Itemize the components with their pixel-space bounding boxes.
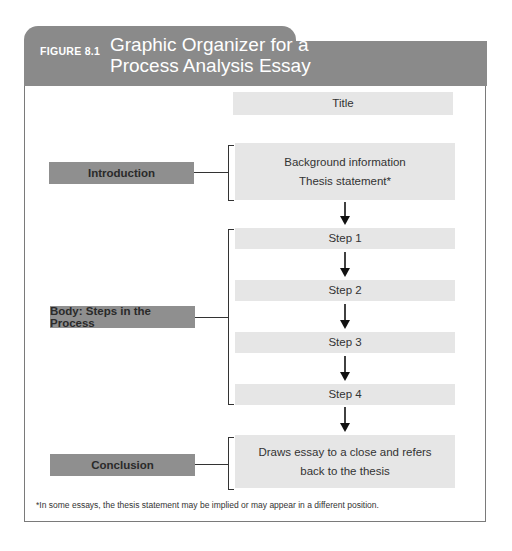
step-2-label: Step 2 [328, 281, 361, 300]
step-3-box: Step 3 [235, 332, 455, 353]
conclusion-connector [195, 464, 228, 465]
arrow-down-icon [338, 252, 352, 278]
arrow-down-icon [338, 202, 352, 226]
thesis-statement-text: Thesis statement* [299, 172, 391, 191]
conclusion-text-line-2: back to the thesis [300, 462, 390, 481]
step-2-box: Step 2 [235, 280, 455, 301]
title-box: Title [233, 92, 453, 115]
figure-title-line-1: Graphic Organizer for a [110, 34, 311, 55]
conclusion-bracket [228, 437, 234, 490]
arrow-down-icon [338, 304, 352, 330]
introduction-connector [194, 172, 228, 173]
figure-label: FIGURE 8.1 [40, 44, 100, 58]
introduction-label-box: Introduction [49, 162, 194, 184]
figure-title-line-2: Process Analysis Essay [110, 55, 311, 76]
arrow-down-icon [338, 407, 352, 433]
body-label: Body: Steps in the Process [50, 305, 195, 329]
step-1-box: Step 1 [235, 228, 455, 249]
introduction-content-box: Background information Thesis statement* [235, 143, 455, 200]
background-info-text: Background information [284, 153, 405, 172]
body-label-box: Body: Steps in the Process [50, 306, 195, 328]
step-4-box: Step 4 [235, 384, 455, 405]
body-bracket [228, 229, 234, 405]
conclusion-text-line-1: Draws essay to a close and refers [258, 443, 431, 462]
step-1-label: Step 1 [328, 229, 361, 248]
arrow-down-icon [338, 356, 352, 382]
conclusion-label-box: Conclusion [50, 454, 195, 476]
body-connector [195, 317, 228, 318]
footnote: *In some essays, the thesis statement ma… [36, 500, 379, 510]
figure-title: Graphic Organizer for a Process Analysis… [110, 34, 311, 76]
step-4-label: Step 4 [328, 385, 361, 404]
conclusion-label: Conclusion [91, 459, 154, 471]
title-box-label: Title [332, 94, 353, 113]
step-3-label: Step 3 [328, 333, 361, 352]
conclusion-content-box: Draws essay to a close and refers back t… [235, 435, 455, 488]
introduction-label: Introduction [88, 167, 155, 179]
introduction-bracket [228, 145, 234, 201]
